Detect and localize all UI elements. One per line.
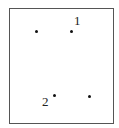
- point-top-right: [70, 30, 73, 33]
- point-top-left: [35, 30, 38, 33]
- diagram-frame: [9, 8, 114, 124]
- label-point-1: 1: [74, 14, 81, 27]
- point-bottom-left: [53, 94, 56, 97]
- label-point-2: 2: [42, 95, 49, 108]
- point-bottom-right: [88, 95, 91, 98]
